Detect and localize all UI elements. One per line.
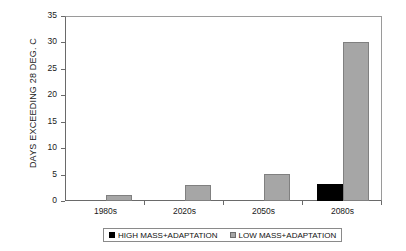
bar-group: [303, 17, 382, 201]
gray-square-icon: [230, 232, 236, 238]
y-axis-tick-label: 25: [48, 63, 57, 73]
x-axis-tick-mark: [381, 201, 382, 205]
y-axis-tick-label: 35: [48, 10, 57, 20]
y-axis-tick-label: 20: [48, 89, 57, 99]
black-square-icon: [109, 232, 115, 238]
y-axis-tick-mark: [61, 201, 65, 202]
x-axis-label-1980s: 1980s: [66, 206, 145, 216]
bar-group: [224, 17, 303, 201]
y-axis-tick-mark: [61, 175, 65, 176]
x-axis-label-2050s: 2050s: [224, 206, 303, 216]
bar-group: [66, 17, 145, 201]
legend-label: HIGH MASS+ADAPTATION: [118, 231, 218, 240]
y-axis-tick-label: 5: [52, 169, 57, 179]
bar-low-mass-2080s: [343, 42, 369, 201]
y-axis-tick-mark: [61, 16, 65, 17]
legend-entry-high-mass: HIGH MASS+ADAPTATION: [109, 231, 218, 240]
y-axis-tick-mark: [61, 122, 65, 123]
y-axis-tick-mark: [61, 69, 65, 70]
chart-legend: HIGH MASS+ADAPTATIONLOW MASS+ADAPTATION: [103, 228, 342, 242]
y-axis-tick-mark: [61, 95, 65, 96]
y-axis-tick-label: 15: [48, 116, 57, 126]
bar-chart: DAYS EXCEEDING 28 DEG. C 05101520253035 …: [0, 0, 406, 251]
y-axis-tick-mark: [61, 42, 65, 43]
bar-group: [145, 17, 224, 201]
legend-entry-low-mass: LOW MASS+ADAPTATION: [230, 231, 337, 240]
y-axis-tick-label: 10: [48, 142, 57, 152]
legend-label: LOW MASS+ADAPTATION: [239, 231, 337, 240]
y-axis-tick-mark: [61, 148, 65, 149]
bar-low-mass-2020s: [185, 185, 211, 201]
y-axis-tick-label: 30: [48, 36, 57, 46]
y-axis-title: DAYS EXCEEDING 28 DEG. C: [28, 8, 38, 198]
x-axis-label-2020s: 2020s: [145, 206, 224, 216]
y-axis-tick-label: 0: [52, 195, 57, 205]
x-axis-label-2080s: 2080s: [303, 206, 382, 216]
bar-high-mass-2080s: [317, 184, 343, 201]
bar-low-mass-2050s: [264, 174, 290, 201]
x-axis-labels: 1980s2020s2050s2080s: [66, 206, 382, 216]
plot-area: [66, 17, 382, 201]
